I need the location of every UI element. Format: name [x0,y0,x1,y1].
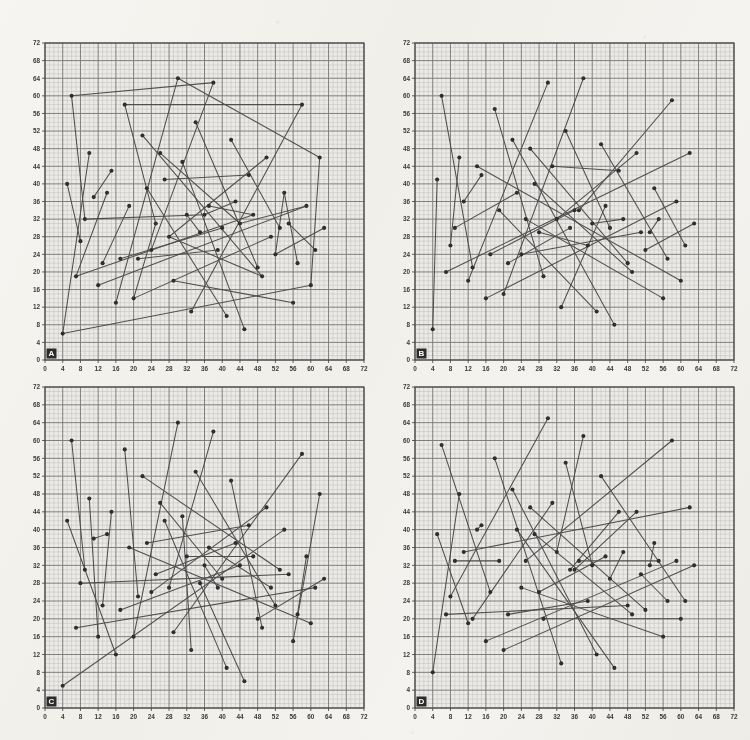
svg-text:52: 52 [642,713,650,720]
svg-text:44: 44 [403,508,411,515]
svg-text:44: 44 [403,163,411,170]
svg-text:4: 4 [36,686,40,693]
svg-text:68: 68 [33,57,41,64]
svg-text:56: 56 [33,110,41,117]
svg-text:12: 12 [33,651,41,658]
svg-text:48: 48 [403,145,411,152]
svg-text:0: 0 [36,356,40,363]
svg-text:20: 20 [130,713,138,720]
svg-text:12: 12 [95,365,103,372]
svg-text:12: 12 [403,303,411,310]
svg-text:4: 4 [36,339,40,346]
svg-text:68: 68 [403,401,411,408]
svg-text:48: 48 [254,365,262,372]
svg-text:16: 16 [33,286,41,293]
svg-text:56: 56 [660,713,668,720]
svg-text:32: 32 [33,562,41,569]
svg-text:32: 32 [403,215,411,222]
svg-text:16: 16 [112,365,120,372]
svg-text:52: 52 [642,365,650,372]
x-tick-labels: 04812162024283236404448525660646872 [43,365,368,372]
svg-text:4: 4 [431,365,435,372]
panel-label-a: A [47,349,57,359]
svg-text:28: 28 [33,233,41,240]
svg-text:8: 8 [406,321,410,328]
svg-text:16: 16 [112,713,120,720]
svg-text:8: 8 [36,669,40,676]
svg-text:44: 44 [33,508,41,515]
svg-text:60: 60 [403,92,411,99]
svg-text:60: 60 [677,713,685,720]
svg-text:60: 60 [307,713,315,720]
svg-text:72: 72 [360,365,368,372]
svg-text:16: 16 [482,713,490,720]
svg-text:60: 60 [33,437,41,444]
svg-text:56: 56 [33,455,41,462]
svg-text:44: 44 [236,713,244,720]
svg-text:36: 36 [403,544,411,551]
svg-text:56: 56 [403,110,411,117]
svg-text:20: 20 [500,713,508,720]
svg-text:60: 60 [403,437,411,444]
svg-text:44: 44 [236,365,244,372]
svg-text:48: 48 [624,713,632,720]
svg-text:64: 64 [33,75,41,82]
svg-text:36: 36 [571,365,579,372]
svg-text:68: 68 [403,57,411,64]
svg-text:28: 28 [403,233,411,240]
svg-text:16: 16 [33,633,41,640]
svg-text:20: 20 [33,615,41,622]
svg-text:0: 0 [413,365,417,372]
svg-text:8: 8 [406,669,410,676]
svg-text:20: 20 [130,365,138,372]
y-tick-labels: 04812162024283236404448525660646872 [403,383,411,711]
svg-text:4: 4 [431,713,435,720]
svg-text:24: 24 [33,597,41,604]
svg-text:24: 24 [148,365,156,372]
svg-text:8: 8 [449,713,453,720]
svg-text:8: 8 [449,365,453,372]
svg-text:56: 56 [290,365,298,372]
svg-text:16: 16 [403,633,411,640]
svg-text:56: 56 [403,455,411,462]
y-tick-labels: 04812162024283236404448525660646872 [33,39,41,363]
svg-text:28: 28 [403,579,411,586]
svg-text:32: 32 [553,713,561,720]
svg-text:36: 36 [201,365,209,372]
svg-text:36: 36 [403,198,411,205]
svg-text:4: 4 [61,713,65,720]
svg-text:24: 24 [33,251,41,258]
svg-text:68: 68 [343,713,351,720]
svg-text:52: 52 [403,472,411,479]
svg-text:72: 72 [403,383,411,390]
svg-text:12: 12 [33,303,41,310]
svg-text:64: 64 [325,713,333,720]
svg-text:20: 20 [500,365,508,372]
svg-text:24: 24 [518,713,526,720]
svg-text:44: 44 [606,365,614,372]
svg-text:40: 40 [33,526,41,533]
svg-text:60: 60 [307,365,315,372]
svg-text:40: 40 [589,365,597,372]
svg-text:12: 12 [95,713,103,720]
svg-text:24: 24 [518,365,526,372]
svg-text:64: 64 [33,419,41,426]
svg-text:72: 72 [403,39,411,46]
svg-text:68: 68 [343,365,351,372]
panel-label-d: D [417,697,427,707]
svg-text:C: C [49,697,55,706]
svg-text:16: 16 [482,365,490,372]
svg-text:12: 12 [403,651,411,658]
svg-text:28: 28 [33,579,41,586]
panel-label-b: B [417,349,427,359]
svg-text:40: 40 [33,180,41,187]
svg-text:20: 20 [403,615,411,622]
panel-label-c: C [47,697,57,707]
svg-text:48: 48 [33,490,41,497]
svg-text:4: 4 [406,686,410,693]
svg-text:28: 28 [166,713,174,720]
svg-text:28: 28 [166,365,174,372]
x-tick-labels: 04812162024283236404448525660646872 [413,365,738,372]
svg-text:0: 0 [413,713,417,720]
svg-text:68: 68 [713,713,721,720]
